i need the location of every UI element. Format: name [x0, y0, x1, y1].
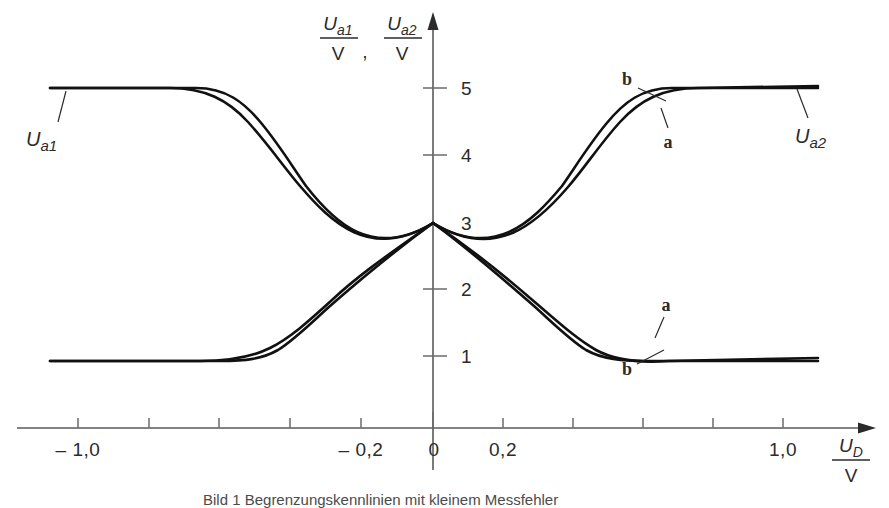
y-axis-arrowhead [428, 12, 439, 30]
y-axis-title-denominator-2: V [396, 43, 409, 64]
series-annotations: Ua1 Ua2 [26, 89, 827, 154]
y-tick-group [423, 88, 447, 356]
x-axis-title-numerator: UD [839, 435, 863, 460]
curve-ua2-b [50, 223, 433, 361]
lower-a-leader-line [655, 317, 664, 338]
ua1-leader-line [58, 91, 66, 122]
x-tick-label--0.2: – 0,2 [339, 439, 384, 460]
curve-label-lower-a: a [662, 295, 671, 315]
x-tick-labels: – 1,0 – 0,2 0 0,2 1,0 [56, 439, 797, 460]
ua2-leader-line [797, 89, 808, 118]
x-tick-label-0.2: 0,2 [489, 439, 517, 460]
curve-ua2-a-upper [433, 86, 818, 239]
y-axis-title-denominator-1: V [332, 43, 345, 64]
curve-ua2-b-upper [433, 88, 818, 238]
curve-ua1-b-lower [433, 223, 818, 361]
x-tick-label-0: 0 [428, 439, 439, 460]
curve-ua2-a [50, 223, 433, 361]
y-axis-title: Ua1 V , Ua2 V [320, 13, 422, 64]
series-label-ua1: Ua1 [26, 128, 57, 154]
x-tick-label--1.0: – 1,0 [56, 439, 101, 460]
curves-group [50, 86, 818, 362]
y-tick-label-3: 3 [461, 213, 472, 234]
y-axis-title-numerator-1: Ua1 [323, 13, 352, 38]
y-axis-title-separator: , [362, 41, 367, 62]
x-axis-title-denominator: V [845, 465, 858, 486]
curve-label-upper-a: a [664, 132, 673, 152]
x-tick-label-1.0: 1,0 [769, 439, 797, 460]
upper-a-leader-line [661, 108, 668, 128]
y-tick-label-4: 4 [461, 145, 472, 166]
y-tick-label-1: 1 [461, 346, 472, 367]
y-tick-labels: 5 4 3 2 1 [461, 78, 472, 367]
x-axis-arrowhead [858, 423, 876, 434]
curve-ua1-b [50, 88, 433, 238]
figure-caption: Bild 1 Begrenzungskennlinien mit kleinem… [203, 491, 863, 508]
curve-annotations: b a a b [622, 69, 673, 379]
curve-label-lower-b: b [622, 359, 632, 379]
curve-label-upper-b: b [622, 69, 632, 89]
y-tick-label-2: 2 [461, 279, 472, 300]
y-axis-title-numerator-2: Ua2 [387, 13, 417, 38]
axes-group [17, 12, 876, 470]
x-tick-group [78, 412, 783, 428]
series-label-ua2: Ua2 [795, 125, 827, 151]
x-axis-title: UD V [832, 435, 870, 486]
y-tick-label-5: 5 [461, 78, 472, 99]
